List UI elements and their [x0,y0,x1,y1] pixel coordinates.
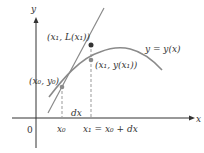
dx-label: dx [71,108,82,118]
linear-approximation-diagram: y x 0 (x₁, L(x₁)) (x₁, y(x₁)) (x₀, y₀) y… [0,0,204,153]
y-axis-label: y [30,4,37,14]
x1-tick-label: x₁ = x₀ + dx [83,124,138,134]
origin-label: 0 [27,125,33,135]
point-x0-y0 [60,85,65,90]
point-x1-y-label: (x₁, y(x₁)) [95,60,138,70]
point-x1-y [89,58,94,63]
curve [49,48,162,97]
x-axis-arrow-icon [189,116,195,121]
x0-tick-label: x₀ [57,124,66,134]
x-axis-label: x [196,114,201,124]
point-x1-L [89,43,94,48]
curve-label: y = y(x) [144,44,181,54]
y-axis-arrow-icon [34,17,39,23]
point-x1-L-label: (x₁, L(x₁)) [47,32,91,42]
point-x0-y0-label: (x₀, y₀) [29,76,60,86]
